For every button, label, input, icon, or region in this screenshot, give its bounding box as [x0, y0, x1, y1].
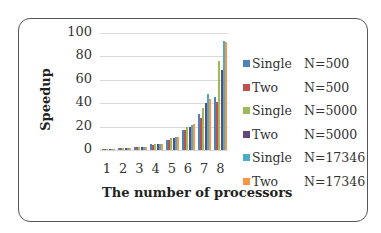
legend: SingleN=500TwoN=500SingleN=5000TwoN=5000… [243, 52, 365, 193]
bar [209, 99, 211, 150]
bar [161, 144, 163, 150]
bar [225, 42, 227, 150]
y-axis-label: Speedup [38, 68, 53, 131]
x-tick-label: 1 [100, 161, 114, 176]
y-tick-label: 80 [62, 47, 92, 62]
legend-value: N=5000 [304, 103, 357, 118]
bar [193, 124, 195, 150]
legend-swatch-icon [243, 131, 250, 138]
legend-label: Two [252, 80, 304, 95]
legend-value: N=5000 [304, 127, 357, 142]
legend-label: Single [252, 103, 304, 118]
legend-swatch-icon [243, 84, 250, 91]
legend-value: N=17346 [304, 150, 365, 165]
gridline [100, 56, 228, 57]
x-tick-label: 2 [116, 161, 130, 176]
bar [129, 148, 131, 150]
y-tick-label: 100 [62, 24, 92, 39]
legend-item: TwoN=17346 [243, 170, 365, 194]
legend-item: SingleN=500 [243, 52, 365, 76]
y-tick-label: 40 [62, 94, 92, 109]
gridline [100, 33, 228, 34]
y-tick-label: 20 [62, 118, 92, 133]
legend-value: N=17346 [304, 174, 365, 189]
legend-label: Single [252, 56, 304, 71]
x-tick-label: 6 [181, 161, 195, 176]
legend-item: TwoN=5000 [243, 123, 365, 147]
legend-value: N=500 [304, 56, 349, 71]
bar [145, 147, 147, 151]
y-tick-label: 0 [62, 141, 92, 156]
legend-swatch-icon [243, 60, 250, 67]
x-tick-label: 8 [213, 161, 227, 176]
legend-swatch-icon [243, 178, 250, 185]
gridline [100, 150, 228, 151]
legend-swatch-icon [243, 154, 250, 161]
legend-value: N=500 [304, 80, 349, 95]
bar [113, 149, 115, 150]
legend-label: Single [252, 150, 304, 165]
legend-item: TwoN=500 [243, 76, 365, 100]
gridline [100, 80, 228, 81]
plot-area [100, 33, 228, 150]
x-tick-label: 5 [165, 161, 179, 176]
bar [177, 137, 179, 150]
y-tick-label: 60 [62, 71, 92, 86]
x-tick-label: 3 [132, 161, 146, 176]
legend-label: Two [252, 174, 304, 189]
legend-label: Two [252, 127, 304, 142]
legend-item: SingleN=17346 [243, 146, 365, 170]
legend-item: SingleN=5000 [243, 99, 365, 123]
legend-swatch-icon [243, 107, 250, 114]
x-tick-label: 7 [197, 161, 211, 176]
x-tick-label: 4 [149, 161, 163, 176]
